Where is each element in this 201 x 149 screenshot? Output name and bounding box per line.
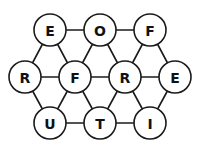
letter-node: F <box>59 61 91 93</box>
letter-node: R <box>109 61 141 93</box>
node-letter: T <box>95 116 105 132</box>
node-letter: R <box>120 70 131 86</box>
node-letter: E <box>45 23 55 39</box>
letter-node: I <box>134 107 166 139</box>
letter-node: E <box>34 14 66 46</box>
node-letter: F <box>70 70 80 86</box>
node-letter: E <box>170 70 180 86</box>
letter-node: O <box>84 14 116 46</box>
node-letter: R <box>20 70 31 86</box>
node-letter: I <box>147 116 152 132</box>
letter-node: F <box>134 14 166 46</box>
letter-node: T <box>84 107 116 139</box>
letter-node: R <box>9 61 41 93</box>
letter-grid-diagram: EOFRFREUTI <box>0 0 201 149</box>
node-letter: O <box>94 23 106 39</box>
letter-node: E <box>159 61 191 93</box>
node-letter: U <box>44 116 55 132</box>
node-letter: F <box>145 23 155 39</box>
letter-node: U <box>34 107 66 139</box>
